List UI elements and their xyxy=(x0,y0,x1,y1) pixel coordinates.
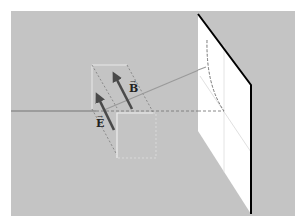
em-wave-diagram: → B → E xyxy=(0,0,303,224)
label-magnetic-field: B xyxy=(129,82,138,95)
diagram-canvas xyxy=(0,0,303,224)
label-electric-field: E xyxy=(96,117,104,130)
